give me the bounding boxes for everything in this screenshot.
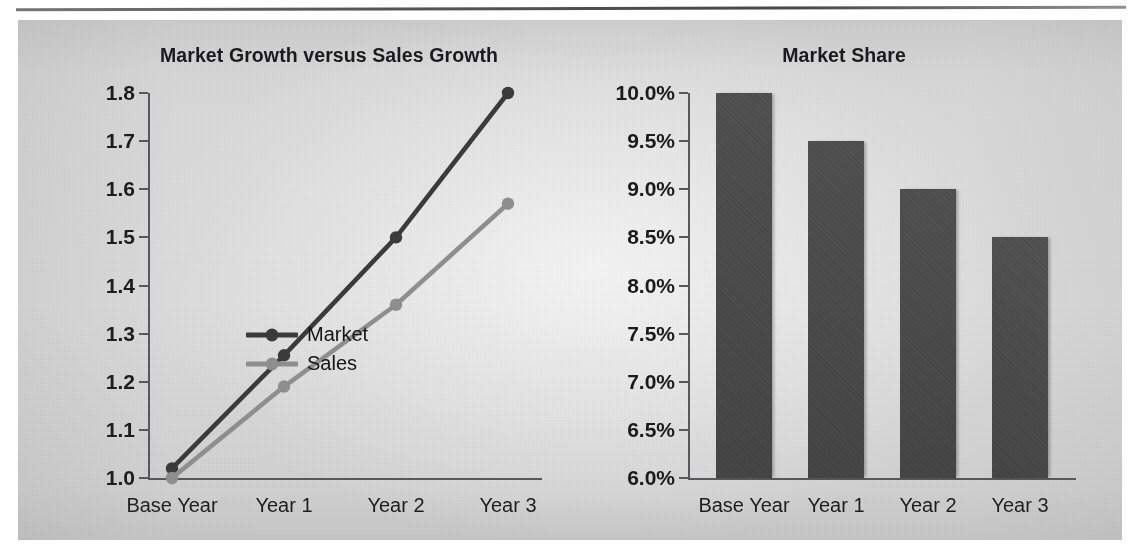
line-chart-y-tick: [139, 381, 148, 383]
line-chart-y-tick: [139, 140, 148, 142]
bar-chart-y-tick-label: 10.0%: [615, 81, 675, 105]
line-data-point: [166, 472, 178, 484]
bar-chart-y-tick-label: 8.0%: [627, 274, 675, 298]
bar-chart-y-tick: [679, 140, 688, 142]
line-chart-y-tick-label: 1.5: [106, 225, 135, 249]
figure-panel: Market Growth versus Sales Growth 1.01.1…: [18, 20, 1122, 540]
bar-chart-y-tick-label: 8.5%: [627, 225, 675, 249]
line-chart-y-tick: [139, 429, 148, 431]
line-data-point: [390, 299, 402, 311]
line-chart-y-tick-label: 1.1: [106, 418, 135, 442]
bar-chart-y-tick: [679, 381, 688, 383]
line-chart-y-tick: [139, 333, 148, 335]
line-chart-y-tick: [139, 236, 148, 238]
line-chart-market-growth-versus-sales-growth: Market Growth versus Sales Growth 1.01.1…: [18, 20, 578, 540]
line-chart-x-axis: [148, 478, 542, 480]
line-chart-y-tick: [139, 188, 148, 190]
bar-chart-y-tick: [679, 236, 688, 238]
figure-page: Market Growth versus Sales Growth 1.01.1…: [0, 0, 1140, 559]
bar-chart-y-tick-label: 7.5%: [627, 322, 675, 346]
line-chart-y-tick-label: 1.2: [106, 370, 135, 394]
bar-year-1[interactable]: [808, 141, 863, 478]
bar-chart-x-tick-label: Year 1: [807, 494, 864, 517]
bar-chart-market-share: Market Share 6.0%6.5%7.0%7.5%8.0%8.5%9.0…: [566, 20, 1122, 540]
legend-label-market: Market: [307, 323, 368, 346]
bar-chart-y-tick: [679, 429, 688, 431]
page-top-rule: [16, 6, 1126, 11]
bar-chart-x-tick-label: Base Year: [698, 494, 789, 517]
bar-chart-title: Market Share: [566, 44, 1122, 67]
bar-chart-y-tick: [679, 188, 688, 190]
bar-chart-x-tick-label: Year 3: [991, 494, 1048, 517]
line-chart-y-tick-label: 1.0: [106, 466, 135, 490]
line-chart-y-tick: [139, 92, 148, 94]
line-chart-y-tick-label: 1.8: [106, 81, 135, 105]
line-chart-x-tick-label: Year 2: [367, 494, 424, 517]
line-data-point: [502, 87, 514, 99]
bar-chart-x-axis: [688, 478, 1076, 480]
bar-chart-y-tick-label: 9.5%: [627, 129, 675, 153]
line-chart-x-tick-label: Year 3: [479, 494, 536, 517]
bar-year-2[interactable]: [900, 189, 955, 478]
line-series-market: [166, 87, 514, 475]
legend-item-market[interactable]: Market: [246, 320, 368, 349]
bar-chart-plot-area: 6.0%6.5%7.0%7.5%8.0%8.5%9.0%9.5%10.0%Bas…: [688, 93, 1068, 478]
line-data-point: [502, 197, 514, 209]
bar-chart-y-tick-label: 7.0%: [627, 370, 675, 394]
legend-label-sales: Sales: [307, 352, 357, 375]
bar-chart-y-tick: [679, 92, 688, 94]
bar-chart-y-tick: [679, 477, 688, 479]
line-chart-y-tick-label: 1.7: [106, 129, 135, 153]
line-chart-x-tick-label: Base Year: [126, 494, 217, 517]
line-chart-title: Market Growth versus Sales Growth: [18, 44, 578, 67]
line-chart-y-tick: [139, 285, 148, 287]
bar-chart-y-tick: [679, 333, 688, 335]
bar-chart-y-tick-label: 6.0%: [627, 466, 675, 490]
line-chart-series-group: [148, 93, 536, 478]
bar-chart-y-tick-label: 9.0%: [627, 177, 675, 201]
line-chart-legend: Market Sales: [246, 320, 368, 378]
line-chart-y-tick-label: 1.6: [106, 177, 135, 201]
line-chart-y-tick-label: 1.4: [106, 274, 135, 298]
legend-item-sales[interactable]: Sales: [246, 349, 368, 378]
line-chart-x-tick-label: Year 1: [255, 494, 312, 517]
line-chart-y-tick-label: 1.3: [106, 322, 135, 346]
bar-year-3[interactable]: [992, 237, 1047, 478]
line-data-point: [278, 380, 290, 392]
bar-chart-x-tick-label: Year 2: [899, 494, 956, 517]
bar-chart-y-tick: [679, 285, 688, 287]
bar-chart-y-axis: [688, 93, 690, 478]
line-chart-y-tick: [139, 477, 148, 479]
line-data-point: [390, 231, 402, 243]
bar-base-year[interactable]: [716, 93, 771, 478]
line-chart-plot-area: 1.01.11.21.31.41.51.61.71.8Base YearYear…: [148, 93, 536, 478]
legend-swatch-sales-icon: [246, 356, 298, 372]
legend-swatch-market-icon: [246, 327, 298, 343]
bar-chart-y-tick-label: 6.5%: [627, 418, 675, 442]
